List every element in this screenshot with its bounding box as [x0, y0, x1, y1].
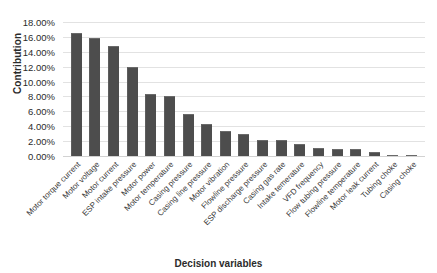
- bar-slot: [179, 22, 198, 156]
- y-axis-tick-label: 14.00%: [23, 46, 55, 57]
- bar-slot: [86, 22, 105, 156]
- gridline: [63, 156, 425, 157]
- bar-slot: [346, 22, 365, 156]
- bar-slot: [402, 22, 421, 156]
- bar: [71, 33, 82, 156]
- y-axis-tick-label: 16.00%: [23, 31, 55, 42]
- bar-slot: [197, 22, 216, 156]
- bar: [89, 38, 100, 156]
- x-axis-category-labels: Motor torque currentMotor voltageMotor c…: [63, 158, 425, 250]
- bar-slot: [142, 22, 161, 156]
- bar-slot: [216, 22, 235, 156]
- bar: [350, 149, 361, 156]
- bar-slot: [291, 22, 310, 156]
- bar-slot: [365, 22, 384, 156]
- bar-slot: [160, 22, 179, 156]
- bar: [183, 114, 194, 156]
- x-axis-title: Decision variables: [0, 258, 437, 269]
- bar: [313, 148, 324, 156]
- bar: [127, 67, 138, 156]
- bar: [406, 155, 417, 157]
- y-axis-tick-label: 0.00%: [28, 151, 55, 162]
- bar-slot: [67, 22, 86, 156]
- y-axis-tick-label: 4.00%: [28, 121, 55, 132]
- bar: [108, 46, 119, 156]
- bar: [276, 140, 287, 156]
- bar: [332, 149, 343, 156]
- bar: [220, 131, 231, 156]
- bar-slot: [328, 22, 347, 156]
- bar: [145, 94, 156, 156]
- bar: [238, 134, 249, 156]
- bar: [387, 155, 398, 157]
- bar-slot: [272, 22, 291, 156]
- bar-slot: [253, 22, 272, 156]
- bar: [294, 144, 305, 156]
- y-axis-tick-label: 8.00%: [28, 91, 55, 102]
- bar-slot: [123, 22, 142, 156]
- bar-slot: [104, 22, 123, 156]
- bar-slot: [235, 22, 254, 156]
- y-axis-tick-labels: 0.00%2.00%4.00%6.00%8.00%10.00%12.00%14.…: [0, 22, 59, 156]
- y-axis-tick-label: 18.00%: [23, 17, 55, 28]
- bar: [201, 124, 212, 156]
- y-axis-tick-label: 2.00%: [28, 136, 55, 147]
- y-axis-tick-label: 10.00%: [23, 76, 55, 87]
- y-axis-tick-label: 6.00%: [28, 106, 55, 117]
- bar: [164, 96, 175, 156]
- bar: [369, 152, 380, 156]
- plot-area: [63, 22, 425, 156]
- y-axis-tick-label: 12.00%: [23, 61, 55, 72]
- contribution-bar-chart: Contribution 0.00%2.00%4.00%6.00%8.00%10…: [0, 0, 437, 273]
- bar-slot: [384, 22, 403, 156]
- bar: [257, 140, 268, 156]
- bar-slot: [309, 22, 328, 156]
- bar-series: [63, 22, 425, 156]
